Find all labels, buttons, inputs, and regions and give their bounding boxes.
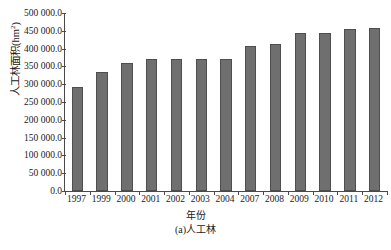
x-axis-tick-label: 2004 <box>213 193 238 206</box>
y-axis-tick-label: 0.0 <box>14 186 62 196</box>
figure-caption: (a)人工林 <box>0 223 391 236</box>
y-axis-tick-label: 250 000.0 <box>14 97 62 107</box>
x-axis-title: 年份 <box>0 209 391 222</box>
x-axis-tick-label: 2011 <box>336 193 361 206</box>
y-axis-tick-label: 450 000.0 <box>14 26 62 36</box>
bar <box>270 44 281 191</box>
x-axis-tick-label: 2007 <box>237 193 262 206</box>
bar <box>121 63 132 191</box>
bar-series <box>65 13 387 191</box>
x-axis-tick-mark <box>387 191 388 195</box>
x-axis-tick-label: 2001 <box>138 193 163 206</box>
bar <box>369 28 380 191</box>
plot-area <box>64 13 387 192</box>
y-axis-tick-labels: 0.050 000.0100 000.0150 000.0200 000.025… <box>14 8 62 194</box>
bar <box>196 59 207 191</box>
x-axis-tick-label: 2009 <box>287 193 312 206</box>
x-axis-tick-label: 2000 <box>114 193 139 206</box>
y-axis-tick-label: 300 000.0 <box>14 79 62 89</box>
bar <box>96 72 107 191</box>
bar-chart-figure: 人工林面积(hm2) 0.050 000.0100 000.0150 000.0… <box>0 0 391 250</box>
bar <box>295 33 306 191</box>
x-axis-tick-label: 2012 <box>361 193 386 206</box>
bar <box>344 29 355 191</box>
x-axis-tick-label: 2003 <box>188 193 213 206</box>
x-axis-tick-label: 2002 <box>163 193 188 206</box>
x-axis-tick-label: 2008 <box>262 193 287 206</box>
x-axis-tick-labels: 1997199920002001200220032004200720082009… <box>64 193 386 207</box>
y-axis-tick-label: 350 000.0 <box>14 61 62 71</box>
bar <box>245 46 256 191</box>
y-axis-tick-label: 150 000.0 <box>14 133 62 143</box>
y-axis-tick-label: 200 000.0 <box>14 115 62 125</box>
y-axis-tick-label: 500 000.0 <box>14 8 62 18</box>
bar <box>72 87 83 191</box>
y-axis-tick-label: 100 000.0 <box>14 150 62 160</box>
y-axis-tick-label: 400 000.0 <box>14 44 62 54</box>
x-axis-tick-label: 2010 <box>312 193 337 206</box>
x-axis-tick-label: 1997 <box>64 193 89 206</box>
bar <box>319 33 330 191</box>
bar <box>220 59 231 191</box>
bar <box>146 59 157 191</box>
bar <box>171 59 182 191</box>
y-axis-tick-label: 50 000.0 <box>14 168 62 178</box>
x-axis-tick-label: 1999 <box>89 193 114 206</box>
